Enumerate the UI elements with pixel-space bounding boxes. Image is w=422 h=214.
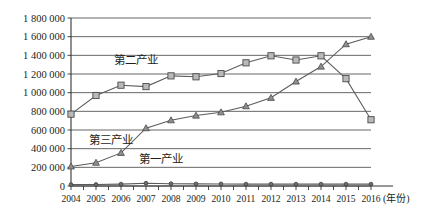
series-marker-dot (119, 182, 123, 186)
series-marker-square (193, 74, 199, 80)
y-axis-tick-label: 0 (60, 181, 65, 192)
series-annotation-1: 第二产业 (114, 53, 158, 66)
series-marker-dot (169, 182, 173, 186)
x-axis-tick-label: 2009 (186, 193, 205, 204)
x-axis-tick-label: 2012 (261, 193, 280, 204)
series-marker-dot (344, 182, 348, 186)
y-axis-tick-label: 1 800 000 (23, 13, 65, 24)
industry-output-line-chart: 0200 000400 000600 000800 0001 000 0001 … (0, 0, 422, 214)
y-axis-tick-label: 800 000 (31, 106, 65, 117)
x-axis-tick-label: 2014 (311, 193, 330, 204)
chart-container: 0200 000400 000600 000800 0001 000 0001 … (0, 0, 422, 214)
series-marker-square (343, 76, 349, 82)
series-marker-square (293, 57, 299, 63)
series-marker-square (168, 73, 174, 79)
series-marker-square (368, 117, 374, 123)
x-axis-tick-label: 2005 (86, 193, 105, 204)
y-axis-tick-label: 600 000 (31, 125, 65, 136)
x-axis-tick-label: 2007 (136, 193, 155, 204)
y-axis-tick-label: 1 400 000 (23, 50, 65, 61)
series-marker-square (218, 70, 224, 76)
series-marker-dot (269, 182, 273, 186)
y-axis-tick-label: 400 000 (31, 143, 65, 154)
x-axis-tick-label: 2013 (286, 193, 305, 204)
series-marker-dot (219, 182, 223, 186)
series-marker-dot (244, 182, 248, 186)
x-axis-tick-label: 2004 (61, 193, 80, 204)
y-axis-tick-label: 1 000 000 (23, 87, 65, 98)
y-axis-tick-label: 1 200 000 (23, 69, 65, 80)
x-axis-label: (年份) (383, 192, 410, 205)
series-marker-dot (144, 181, 148, 185)
series-annotation-3: 第一产业 (139, 152, 183, 165)
y-axis-tick-label: 1 600 000 (23, 31, 65, 42)
x-axis-tick-label: 2006 (111, 193, 130, 204)
series-marker-square (93, 92, 99, 98)
series-marker-dot (69, 183, 73, 187)
series-marker-dot (94, 183, 98, 187)
series-marker-square (143, 84, 149, 90)
series-marker-square (68, 111, 74, 117)
series-marker-dot (319, 182, 323, 186)
series-marker-dot (369, 182, 373, 186)
x-axis-tick-label: 2016 (361, 193, 380, 204)
y-axis-tick-label: 200 000 (31, 162, 65, 173)
series-marker-square (243, 60, 249, 66)
series-marker-square (268, 53, 274, 59)
x-axis-tick-label: 2010 (211, 193, 230, 204)
series-marker-dot (194, 182, 198, 186)
x-axis-tick-label: 2011 (237, 193, 256, 204)
x-axis-tick-label: 2008 (161, 193, 180, 204)
series-marker-triangle (268, 94, 275, 100)
series-marker-triangle (293, 78, 300, 84)
series-marker-dot (294, 182, 298, 186)
x-axis-tick-label: 2015 (336, 193, 355, 204)
series-marker-square (318, 53, 324, 59)
series-annotation-2: 第三产业 (89, 133, 133, 146)
series-marker-square (118, 82, 124, 88)
